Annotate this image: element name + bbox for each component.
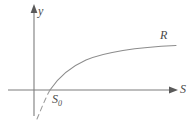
coordinate-diagram <box>0 0 195 120</box>
figure-container: y S R S0 <box>0 0 195 120</box>
x-axis-arrowhead <box>169 87 178 94</box>
curve-r-dashed-extension <box>37 90 50 119</box>
curve-label-r: R <box>160 29 167 41</box>
x-intercept-subscript: 0 <box>58 99 62 108</box>
y-axis-arrowhead <box>31 4 38 13</box>
x-intercept-label-s0: S0 <box>52 93 62 108</box>
x-axis-label: S <box>180 83 186 95</box>
curve-r <box>50 46 176 91</box>
y-axis-label: y <box>38 5 43 17</box>
